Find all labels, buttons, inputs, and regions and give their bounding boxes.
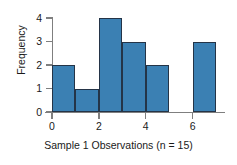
- histogram-figure: Frequency 01234 0246 Sample 1 Observatio…: [0, 0, 237, 165]
- y-tick-label: 2: [28, 60, 42, 71]
- histogram-bar: [99, 18, 122, 112]
- x-axis-title: Sample 1 Observations (n = 15): [0, 139, 237, 151]
- x-tick-mark: [51, 113, 52, 119]
- x-tick-label: 0: [44, 121, 60, 132]
- histogram-bar: [193, 42, 216, 113]
- x-axis-line: [45, 112, 225, 113]
- x-tick-mark: [192, 113, 193, 119]
- y-tick-label: 0: [28, 107, 42, 118]
- y-tick-label: 1: [28, 83, 42, 94]
- y-tick-label: 3: [28, 36, 42, 47]
- histogram-bar: [122, 42, 145, 113]
- histogram-bar: [52, 65, 75, 112]
- histogram-bar: [75, 89, 98, 113]
- y-axis-title: Frequency: [15, 10, 27, 90]
- histogram-bar: [146, 65, 169, 112]
- plot-area: [52, 18, 216, 112]
- x-tick-mark: [98, 113, 99, 119]
- x-tick-mark: [145, 113, 146, 119]
- x-tick-label: 6: [185, 121, 201, 132]
- x-tick-label: 4: [138, 121, 154, 132]
- x-tick-label: 2: [91, 121, 107, 132]
- y-tick-label: 4: [28, 13, 42, 24]
